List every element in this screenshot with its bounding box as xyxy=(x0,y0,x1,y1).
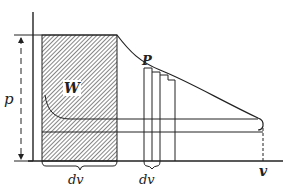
pv-work-diagram: W p P dv dv v xyxy=(0,0,296,190)
label-dv-left: dv xyxy=(68,172,84,187)
label-W: W xyxy=(64,80,81,96)
label-p: p xyxy=(4,90,14,108)
work-area-W xyxy=(42,35,117,161)
arrow-down-icon xyxy=(18,154,24,160)
brace-right xyxy=(144,161,160,169)
label-P: P xyxy=(141,53,153,68)
label-v: v xyxy=(259,163,268,179)
strip-lines xyxy=(144,68,175,161)
label-dv-right: dv xyxy=(139,172,155,187)
expansion-curve xyxy=(117,35,263,130)
brace-left xyxy=(42,161,117,170)
arrow-up-icon xyxy=(18,37,24,43)
